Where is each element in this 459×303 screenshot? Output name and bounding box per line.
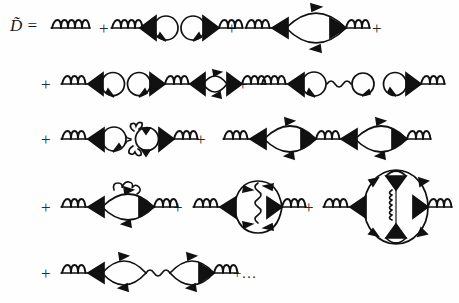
diagram-canvas (0, 0, 459, 303)
diagram-vertex-correction-bubble (193, 181, 306, 233)
diagram-bubble-with-self-energy-coil (61, 182, 178, 232)
diagram-tadpole-coiled-loop (61, 122, 198, 156)
diagram-two-bubble-chain (223, 118, 431, 159)
diagram-tadpole-wavy-loop-tadpole (261, 72, 445, 97)
feynman-diagram-figure: D̃ = + + + + + + + + + + + +… (0, 0, 459, 303)
diagram-double-tadpole (111, 16, 243, 41)
coil-bare-propagator (51, 20, 90, 28)
diagram-two-bubbles-wavy-link (61, 253, 238, 291)
diagram-tadpole-tadpole-bubble (61, 70, 266, 98)
diagram-large-oval-with-internal-coil (323, 170, 452, 244)
diagram-one-loop-bubble (245, 4, 370, 52)
